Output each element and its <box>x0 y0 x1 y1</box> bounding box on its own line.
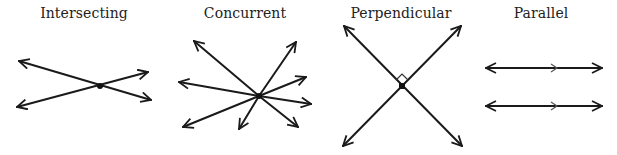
intersecting-line-2 <box>17 72 148 107</box>
right-angle-marker-icon <box>396 74 408 80</box>
concurrent-point-icon <box>256 93 262 99</box>
concurrent-diagram <box>179 41 311 129</box>
concurrent-ray-lower-left <box>183 96 259 127</box>
perpendicular-diagram <box>343 26 462 146</box>
intersecting-line-1 <box>19 61 151 100</box>
intersection-point-icon <box>97 83 103 89</box>
perpendicular-point-icon <box>399 83 405 89</box>
parallel-diagram <box>486 64 602 110</box>
intersecting-diagram <box>17 61 151 107</box>
concurrent-ray-left <box>179 82 259 96</box>
lines-diagram-canvas <box>0 0 617 155</box>
concurrent-ray-upper-left <box>194 41 259 96</box>
